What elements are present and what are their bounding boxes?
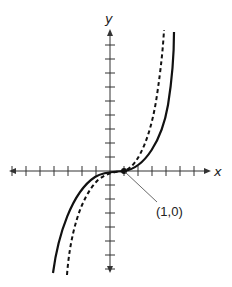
x-axis-label: x [213,164,222,179]
y-axis-up-arrow [107,29,113,36]
y-axis-label: y [104,11,113,26]
solid-curve [53,32,174,273]
point-label: (1,0) [156,204,183,219]
x-axis-right-arrow [204,168,211,174]
y-axis: y [104,11,115,273]
cubic-graph: x y (1,0) [0,0,232,287]
point-leader-line [125,172,157,202]
